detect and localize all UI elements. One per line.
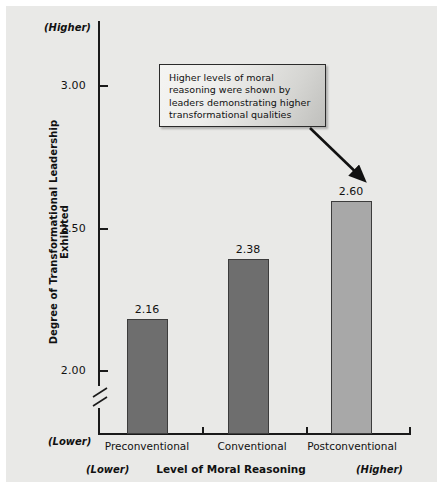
x-tick-mark-start bbox=[98, 427, 100, 434]
chart-plot-area: 3.00 2.50 2.00 2.16 2.38 2.60 Preconvent… bbox=[6, 6, 437, 482]
annotation-arrow-icon bbox=[306, 124, 381, 194]
x-axis-endpoint-higher: (Higher) bbox=[356, 464, 403, 475]
y-tick-mark-3.00 bbox=[100, 85, 108, 87]
bar-value-preconventional: 2.16 bbox=[112, 303, 182, 316]
bar-conventional[interactable] bbox=[228, 259, 269, 434]
y-axis-endpoint-higher: (Higher) bbox=[44, 22, 91, 33]
x-category-label-postconventional: Postconventional bbox=[292, 440, 412, 452]
figure-panel: 3.00 2.50 2.00 2.16 2.38 2.60 Preconvent… bbox=[6, 6, 437, 482]
y-tick-label-2.00: 2.00 bbox=[40, 364, 86, 377]
annotation-callout-box: Higher levels of moral reasoning were sh… bbox=[159, 64, 326, 127]
x-axis-title: Level of Moral Reasoning bbox=[136, 463, 326, 475]
x-tick-mark-2 bbox=[306, 427, 308, 434]
x-tick-mark-end bbox=[409, 427, 411, 434]
y-axis-title: Degree of Transformational Leadership Ex… bbox=[48, 112, 70, 352]
annotation-callout-text: Higher levels of moral reasoning were sh… bbox=[169, 72, 317, 121]
x-category-label-preconventional: Preconventional bbox=[87, 440, 207, 452]
x-axis-endpoint-lower: (Lower) bbox=[86, 464, 129, 475]
y-tick-mark-2.50 bbox=[100, 228, 108, 230]
y-tick-label-3.00: 3.00 bbox=[40, 79, 86, 92]
bar-postconventional[interactable] bbox=[331, 201, 372, 434]
x-tick-mark-1 bbox=[202, 427, 204, 434]
y-axis-endpoint-lower: (Lower) bbox=[48, 436, 91, 447]
axis-break-icon bbox=[91, 386, 109, 408]
bar-preconventional[interactable] bbox=[127, 319, 168, 434]
bar-value-conventional: 2.38 bbox=[213, 243, 283, 256]
y-tick-mark-2.00 bbox=[100, 370, 108, 372]
